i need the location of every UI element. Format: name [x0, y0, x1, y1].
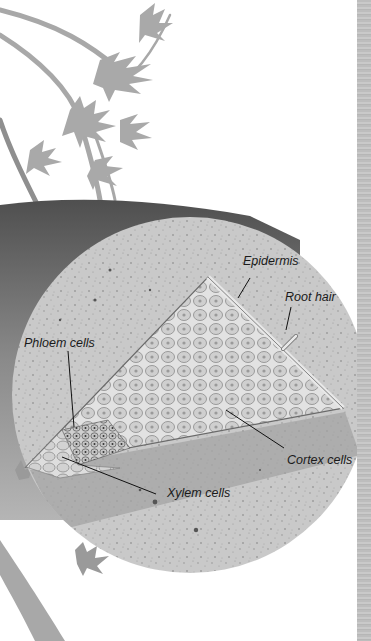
- label-cortex-cells: Cortex cells: [287, 454, 352, 467]
- label-xylem-cells: Xylem cells: [167, 487, 230, 500]
- label-phloem-cells: Phloem cells: [24, 337, 95, 350]
- diagram-canvas: Epidermis Root hair Phloem cells Cortex …: [0, 0, 371, 641]
- page-edge-strip: [357, 0, 371, 641]
- root-tail: [0, 540, 65, 641]
- label-epidermis: Epidermis: [243, 255, 299, 268]
- label-root-hair: Root hair: [285, 291, 336, 304]
- carrot-illustration: [0, 0, 371, 641]
- leaf-clusters: [26, 3, 173, 190]
